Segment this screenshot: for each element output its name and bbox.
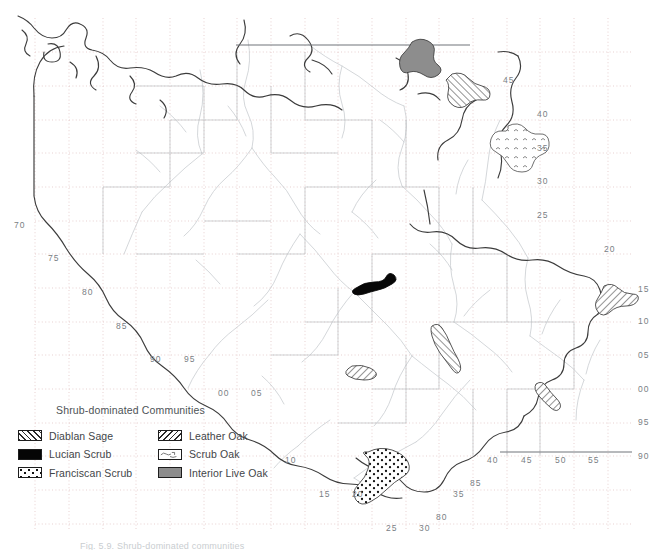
legend-column-right: Leather Oak Scrub Oak Interior Live Oak	[158, 428, 268, 484]
grid-tick-00: 00	[218, 389, 230, 398]
grid-tick-20: 20	[604, 245, 616, 254]
grid-tick-30: 30	[537, 177, 549, 186]
grid-tick-15: 15	[319, 490, 331, 499]
grid-tick-10: 10	[285, 456, 297, 465]
grid-tick-10: 10	[638, 317, 650, 326]
polygon-diablan-sage-southeast	[535, 382, 561, 410]
legend-item-franciscan-scrub[interactable]: Franciscan Scrub	[18, 465, 132, 480]
polygon-leather-oak-central	[431, 324, 461, 373]
legend-label-leather-oak: Leather Oak	[189, 430, 248, 442]
grid-tick-30: 30	[419, 524, 431, 533]
grid-tick-55: 55	[588, 456, 600, 465]
swatch-interior-live-oak-icon	[158, 467, 182, 478]
swatch-franciscan-scrub-icon	[18, 467, 42, 478]
polygon-lucian-scrub-central	[352, 273, 396, 295]
swatch-scrub-oak-icon	[158, 449, 182, 460]
legend-item-leather-oak[interactable]: Leather Oak	[158, 428, 268, 443]
legend-label-lucian-scrub: Lucian Scrub	[49, 448, 112, 460]
grid-tick-20: 20	[352, 490, 364, 499]
legend-item-interior-live-oak[interactable]: Interior Live Oak	[158, 465, 268, 480]
grid-tick-85: 85	[116, 322, 128, 331]
grid-tick-90: 90	[150, 355, 162, 364]
grid-tick-25: 25	[537, 211, 549, 220]
legend-label-scrub-oak: Scrub Oak	[189, 448, 240, 460]
swatch-diablan-sage-icon	[18, 430, 42, 441]
legend-label-franciscan-scrub: Franciscan Scrub	[49, 467, 132, 479]
swatch-leather-oak-icon	[158, 430, 182, 441]
figure-caption: Fig. 5.9. Shrub-dominated communities	[80, 541, 410, 550]
swatch-lucian-scrub-icon	[18, 449, 42, 460]
grid-tick-40: 40	[487, 456, 499, 465]
grid-tick-80: 80	[82, 288, 94, 297]
vegetation-polygons	[346, 39, 639, 504]
legend-label-interior-live-oak: Interior Live Oak	[189, 467, 268, 479]
grid-tick-70: 70	[14, 221, 26, 230]
grid-tick-25: 25	[386, 524, 398, 533]
grid-tick-85: 85	[470, 479, 482, 488]
state-lines	[236, 45, 632, 452]
polygon-leather-oak-north	[446, 73, 490, 108]
legend-column-left: Diablan Sage Lucian Scrub Franciscan Scr…	[18, 428, 132, 484]
legend-title: Shrub-dominated Communities	[56, 404, 205, 416]
legend-item-diablan-sage[interactable]: Diablan Sage	[18, 428, 132, 443]
grid-tick-05: 05	[638, 351, 650, 360]
legend-item-lucian-scrub[interactable]: Lucian Scrub	[18, 447, 132, 462]
grid-tick-45: 45	[503, 76, 515, 85]
grid-tick-90: 90	[638, 452, 650, 461]
grid-tick-40: 40	[537, 110, 549, 119]
grid-tick-35: 35	[537, 144, 549, 153]
map-legend: Shrub-dominated Communities Diablan Sage…	[14, 404, 279, 492]
grid-tick-95: 95	[184, 355, 196, 364]
grid-tick-50: 50	[555, 456, 567, 465]
grid-tick-35: 35	[453, 490, 465, 499]
grid-tick-45: 45	[521, 456, 533, 465]
grid-tick-80: 80	[436, 513, 448, 522]
grid-tick-75: 75	[48, 254, 60, 263]
vegetation-map-figure: 4540353025201510050095907075808590950005…	[0, 0, 664, 550]
polygon-diablan-sage-central	[346, 365, 377, 380]
grid-tick-00: 00	[638, 385, 650, 394]
legend-label-diablan-sage: Diablan Sage	[49, 430, 113, 442]
grid-tick-95: 95	[638, 418, 650, 427]
legend-item-scrub-oak[interactable]: Scrub Oak	[158, 447, 268, 462]
grid-tick-05: 05	[251, 389, 263, 398]
polygon-diablan-sage-east	[596, 284, 639, 315]
grid-tick-15: 15	[638, 285, 650, 294]
